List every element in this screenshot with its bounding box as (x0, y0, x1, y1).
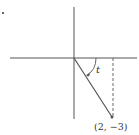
terminal-ray (74, 58, 112, 117)
angle-diagram: t (2, −3) (0, 0, 139, 135)
endpoint-dot (111, 116, 114, 119)
arc-arrowhead-icon (86, 73, 90, 77)
stray-mark (2, 12, 4, 14)
point-label: (2, −3) (94, 121, 128, 132)
angle-arc (87, 58, 96, 75)
angle-label: t (96, 64, 101, 75)
